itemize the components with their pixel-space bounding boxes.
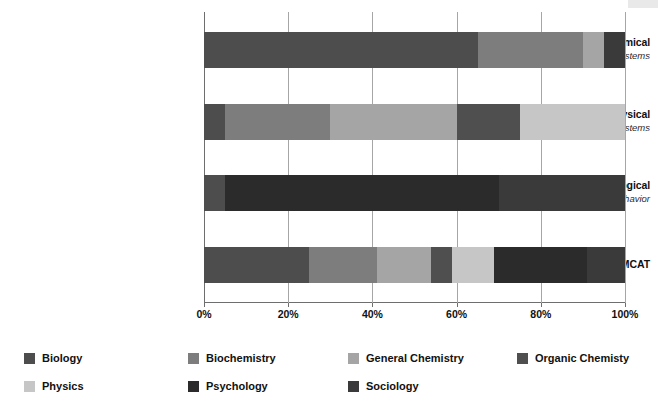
x-axis-tick-mark (288, 303, 289, 307)
x-axis-tick-label: 60% (446, 308, 467, 320)
legend-swatch-icon (188, 353, 199, 364)
bar-segment (520, 104, 625, 140)
x-axis-tick-mark (457, 303, 458, 307)
bar-track (204, 175, 625, 211)
legend-label: Sociology (366, 380, 419, 392)
legend-item: Physics (24, 380, 84, 392)
bar-segment (377, 247, 432, 283)
bar-track (204, 32, 625, 68)
bar-segment (225, 175, 499, 211)
x-axis-tick-mark (204, 303, 205, 307)
chart-legend: BiologyBiochemistryGeneral ChemistryOrga… (0, 352, 658, 408)
bar-row (204, 32, 625, 68)
bar-segment (457, 104, 520, 140)
legend-item: Organic Chemisty (517, 352, 629, 364)
x-axis-tick-mark (541, 303, 542, 307)
legend-label: General Chemistry (366, 352, 464, 364)
legend-item: Psychology (188, 380, 268, 392)
bar-segment (431, 247, 452, 283)
legend-swatch-icon (24, 353, 35, 364)
legend-label: Biology (42, 352, 82, 364)
scan-edge-artifact (628, 0, 658, 8)
legend-item: Sociology (348, 380, 419, 392)
bar-segment (494, 247, 587, 283)
x-axis-tick-label: 100% (612, 308, 639, 320)
bar-segment (225, 104, 330, 140)
bar-row (204, 175, 625, 211)
x-axis-line (204, 302, 625, 303)
bar-segment (478, 32, 583, 68)
bar-track (204, 104, 625, 140)
legend-item: General Chemistry (348, 352, 464, 364)
legend-swatch-icon (348, 353, 359, 364)
x-axis-tick-label: 40% (362, 308, 383, 320)
x-axis-tick-label: 0% (196, 308, 211, 320)
bar-segment (204, 247, 309, 283)
plot-area (204, 12, 625, 303)
legend-item: Biology (24, 352, 82, 364)
x-axis-tick-mark (625, 303, 626, 307)
bar-segment (604, 32, 625, 68)
bar-segment (452, 247, 494, 283)
x-axis-tick-label: 20% (278, 308, 299, 320)
gridline (625, 12, 626, 303)
legend-swatch-icon (24, 381, 35, 392)
bar-segment (583, 32, 604, 68)
legend-label: Psychology (206, 380, 268, 392)
bar-row (204, 104, 625, 140)
bar-segment (204, 104, 225, 140)
legend-label: Biochemistry (206, 352, 276, 364)
legend-label: Organic Chemisty (535, 352, 629, 364)
legend-swatch-icon (348, 381, 359, 392)
legend-swatch-icon (188, 381, 199, 392)
legend-item: Biochemistry (188, 352, 276, 364)
bar-segment (204, 32, 478, 68)
bar-track (204, 247, 625, 283)
legend-label: Physics (42, 380, 84, 392)
bar-segment (309, 247, 376, 283)
bar-segment (204, 175, 225, 211)
legend-swatch-icon (517, 353, 528, 364)
x-axis-tick-mark (372, 303, 373, 307)
bar-segment (587, 247, 625, 283)
bar-segment (330, 104, 456, 140)
bar-row (204, 247, 625, 283)
bar-segment (499, 175, 625, 211)
stacked-bar-chart: Biological and BiochemicalFoundations of… (0, 0, 658, 412)
x-axis-tick-label: 80% (530, 308, 551, 320)
